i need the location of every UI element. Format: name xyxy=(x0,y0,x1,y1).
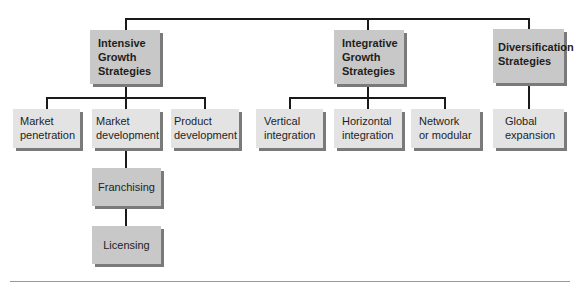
connector-horizontal xyxy=(367,97,369,109)
node-label: Franchising xyxy=(92,180,161,194)
connector-diversification-down xyxy=(528,85,530,109)
node-label: Licensing xyxy=(92,238,161,252)
node-label: Global expansion xyxy=(505,114,560,142)
node-intensive-growth-strategies: Intensive Growth Strategies xyxy=(90,30,160,84)
node-licensing: Licensing xyxy=(92,226,161,264)
connector-intensive-up xyxy=(125,18,127,30)
node-market-development: Market development xyxy=(92,109,160,148)
node-network-or-modular: Network or modular xyxy=(411,109,480,148)
node-label: Diversification Strategies xyxy=(498,40,560,68)
connector-market-penetration xyxy=(46,97,48,109)
node-product-development: Product development xyxy=(171,109,239,148)
node-diversification-strategies: Diversification Strategies xyxy=(493,29,564,83)
connector-product-development xyxy=(204,97,206,109)
connector-market-development xyxy=(125,97,127,109)
node-label: Vertical integration xyxy=(264,114,319,142)
node-label: Horizontal integration xyxy=(342,114,398,142)
connector-licensing xyxy=(125,208,127,226)
node-label: Product development xyxy=(174,114,235,142)
connector-network xyxy=(444,97,446,109)
node-global-expansion: Global expansion xyxy=(493,109,564,148)
node-label: Network or modular xyxy=(419,114,476,142)
connector-franchising xyxy=(125,150,127,168)
node-integrative-growth-strategies: Integrative Growth Strategies xyxy=(334,30,404,84)
bottom-rule xyxy=(10,281,570,282)
node-label: Integrative Growth Strategies xyxy=(342,36,400,78)
connector-diversification-up xyxy=(528,18,530,29)
top-connector xyxy=(125,18,530,20)
connector-integrative-up xyxy=(367,18,369,30)
node-label: Market development xyxy=(96,114,156,142)
node-franchising: Franchising xyxy=(92,168,161,206)
connector-vertical xyxy=(289,97,291,109)
node-horizontal-integration: Horizontal integration xyxy=(334,109,402,148)
node-market-penetration: Market penetration xyxy=(13,109,80,148)
node-label: Intensive Growth Strategies xyxy=(98,36,156,78)
node-label: Market penetration xyxy=(20,114,76,142)
node-vertical-integration: Vertical integration xyxy=(256,109,323,148)
